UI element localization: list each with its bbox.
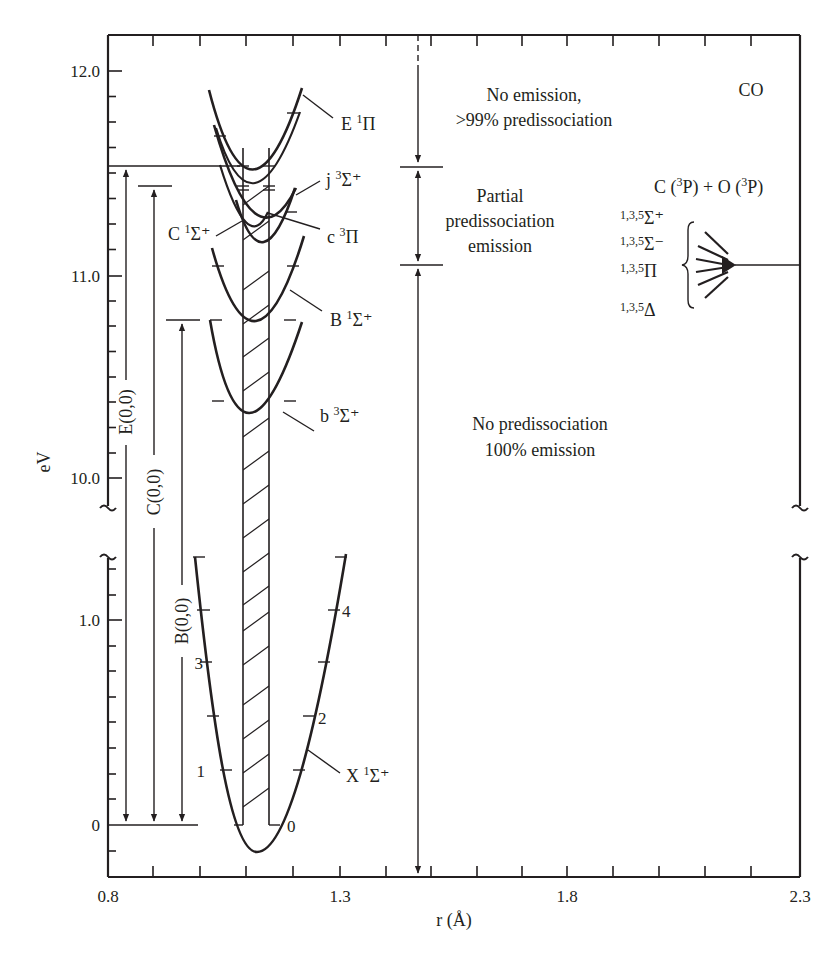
- y-tick-label-10: 10.0: [70, 469, 100, 488]
- y-tick-label-1: 1.0: [79, 611, 100, 630]
- region-label-no-emission-1: No emission,: [486, 85, 581, 105]
- state-label-b: b 3Σ⁺: [320, 404, 359, 426]
- state-label-C: C 1Σ⁺: [168, 222, 211, 244]
- region-divider: [400, 35, 443, 873]
- vib-level-3: 3: [195, 654, 204, 673]
- y-tick-label-12: 12.0: [70, 62, 100, 81]
- vib-level-4: 4: [342, 602, 351, 621]
- transition-label-E00: E(0,0): [116, 389, 137, 434]
- term-sigma-minus: 1,3,5Σ⁻: [620, 234, 664, 254]
- x-tick-label-1-8: 1.8: [556, 887, 577, 906]
- vib-level-0: 0: [287, 817, 296, 836]
- state-label-E: E 1Π: [341, 112, 376, 134]
- x-axis-label: r (Å): [436, 910, 471, 931]
- region-label-partial-1: Partial: [477, 186, 524, 206]
- x-ticks-bottom: [153, 866, 751, 877]
- axis-break-left: [100, 506, 116, 560]
- state-label-j: j 3Σ⁺: [325, 168, 362, 190]
- y-tick-label-11: 11.0: [71, 267, 100, 286]
- axis-break-right: [792, 506, 808, 560]
- x-tick-label-1-3: 1.3: [329, 887, 350, 906]
- vib-level-2: 2: [318, 709, 327, 728]
- state-label-c: c 3Π: [327, 225, 359, 247]
- region-label-no-predissociation-2: 100% emission: [485, 440, 596, 460]
- curve-X-1Sigma: [195, 554, 346, 852]
- vibrational-level-marks-X: [193, 557, 347, 825]
- state-label-B: B 1Σ⁺: [330, 308, 373, 330]
- y-axis-label: eV: [34, 452, 54, 473]
- curve-b-3Sigma: [210, 320, 302, 413]
- term-pi: 1,3,5Π: [620, 261, 657, 281]
- vib-level-1: 1: [197, 762, 206, 781]
- state-label-X: X 1Σ⁺: [346, 764, 389, 786]
- leader-lines: [216, 95, 340, 773]
- region-label-no-predissociation-1: No predissociation: [472, 414, 607, 434]
- curly-brace-icon: [682, 222, 694, 308]
- term-delta: 1,3,5Δ: [620, 300, 656, 320]
- transition-label-C00: C(0,0): [144, 469, 165, 516]
- region-label-no-emission-2: >99% predissociation: [456, 110, 613, 130]
- molecule-label: CO: [738, 80, 763, 100]
- x-tick-label-0-8: 0.8: [97, 887, 118, 906]
- reference-levels: [108, 166, 240, 825]
- term-sigma-plus: 1,3,5Σ⁺: [620, 208, 664, 228]
- potential-energy-diagram: 12.0 11.0 10.0 1.0 0 0.8 1.3 1.8 2.3 r (…: [0, 0, 837, 957]
- arrowhead-icon: [722, 256, 736, 274]
- plot-frame: [108, 35, 800, 877]
- x-tick-label-2-3: 2.3: [789, 887, 810, 906]
- y-ticks-lower: [108, 569, 122, 851]
- y-tick-label-0: 0: [92, 816, 101, 835]
- x-ticks-top: [153, 35, 751, 46]
- term-list: 1,3,5Σ⁺ 1,3,5Σ⁻ 1,3,5Π 1,3,5Δ: [620, 208, 664, 320]
- region-label-partial-2: predissociation: [446, 211, 555, 231]
- region-label-partial-3: emission: [468, 236, 532, 256]
- dissociation-limit-label: C (3P) + O (3P): [654, 175, 763, 198]
- franck-condon-region: [237, 148, 275, 825]
- curve-j-3Sigma: [214, 125, 296, 218]
- transition-label-B00: B(0,0): [172, 598, 193, 645]
